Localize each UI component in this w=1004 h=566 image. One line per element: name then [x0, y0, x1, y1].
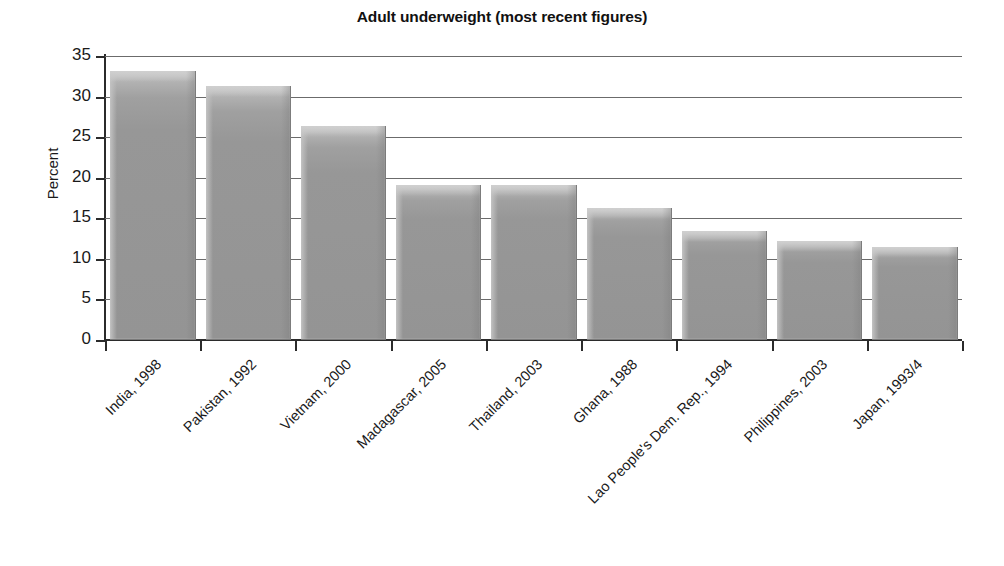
y-axis-tick: [96, 97, 105, 99]
y-axis-tick-label: 35: [51, 45, 91, 65]
y-axis-tick: [96, 137, 105, 139]
bar: [682, 231, 767, 340]
bar: [777, 241, 862, 340]
bar: [491, 185, 576, 340]
bar-top-bevel: [301, 126, 385, 137]
y-axis-tick: [96, 56, 105, 58]
bar: [587, 208, 672, 340]
bar-top-bevel: [396, 185, 480, 196]
bar: [301, 126, 386, 340]
y-axis-tick: [96, 178, 105, 180]
bar-top-bevel: [682, 231, 766, 242]
y-axis-tick: [96, 340, 105, 342]
y-axis-tick: [96, 218, 105, 220]
x-axis-tick: [200, 341, 202, 351]
x-axis-tick: [486, 341, 488, 351]
bar: [396, 185, 481, 340]
bar-top-bevel: [110, 71, 194, 82]
x-axis-tick: [676, 341, 678, 351]
bar-top-bevel: [491, 185, 575, 196]
bar-top-bevel: [587, 208, 671, 219]
bar: [110, 71, 195, 340]
y-axis-tick-label: 15: [51, 207, 91, 227]
x-axis-tick: [105, 341, 107, 351]
y-axis-tick-label: 0: [51, 329, 91, 349]
y-axis-tick-label: 10: [51, 248, 91, 268]
y-axis-tick-label: 20: [51, 167, 91, 187]
x-axis-tick: [581, 341, 583, 351]
x-axis-tick: [391, 341, 393, 351]
y-axis-tick-label: 30: [51, 86, 91, 106]
y-axis-tick: [96, 259, 105, 261]
y-axis-tick-label: 25: [51, 126, 91, 146]
y-axis-tick-label: 5: [51, 288, 91, 308]
x-axis-tick: [295, 341, 297, 351]
bar-top-bevel: [777, 241, 861, 252]
y-axis-tick: [96, 299, 105, 301]
plot-area: [105, 56, 962, 340]
chart-title: Adult underweight (most recent figures): [0, 8, 1004, 26]
x-axis-tick: [772, 341, 774, 351]
bar: [206, 86, 291, 340]
bar-top-bevel: [206, 86, 290, 97]
x-axis-tick: [867, 341, 869, 351]
bar-top-bevel: [872, 247, 956, 258]
x-axis-tick: [962, 341, 964, 351]
bar: [872, 247, 957, 340]
